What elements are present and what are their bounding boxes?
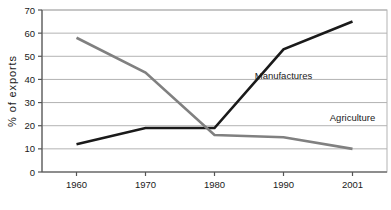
line-chart: 010203040506070 19601970198019902001 Man…: [0, 0, 391, 210]
x-tick-label-2001: 2001: [342, 179, 363, 190]
x-tick-label-1970: 1970: [135, 179, 156, 190]
x-tick-label-1960: 1960: [66, 179, 87, 190]
y-tick-label-20: 20: [24, 120, 35, 131]
x-tick-label-1990: 1990: [273, 179, 294, 190]
y-tick-label-60: 60: [24, 28, 35, 39]
y-tick-label-0: 0: [30, 167, 35, 178]
y-tick-label-70: 70: [24, 5, 35, 16]
x-tick-label-1980: 1980: [204, 179, 225, 190]
y-tick-label-10: 10: [24, 143, 35, 154]
series-label-manufactures: Manufactures: [255, 70, 313, 81]
chart-background: [0, 0, 391, 210]
y-tick-label-40: 40: [24, 74, 35, 85]
chart-canvas: 010203040506070 19601970198019902001 Man…: [0, 0, 391, 210]
series-label-agriculture: Agriculture: [330, 112, 375, 123]
y-tick-label-30: 30: [24, 97, 35, 108]
y-axis-label: % of exports: [6, 55, 18, 127]
y-tick-label-50: 50: [24, 51, 35, 62]
